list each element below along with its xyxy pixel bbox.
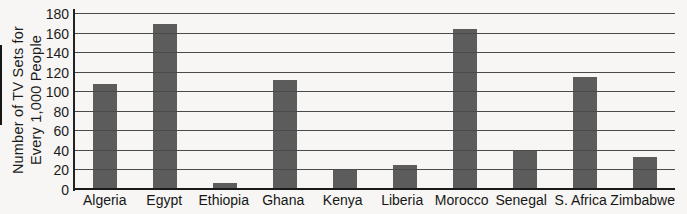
bar-zimbabwe: [633, 157, 657, 190]
x-axis-label-egypt: Egypt: [134, 192, 193, 208]
x-axis-label-ghana: Ghana: [253, 192, 312, 208]
gridline-60: [75, 130, 675, 131]
y-tick-label-120: 120: [46, 65, 69, 81]
bar-slot-senegal: [495, 14, 555, 190]
gridline-100: [75, 91, 675, 92]
bar-series: [75, 14, 675, 190]
gridline-120: [75, 72, 675, 73]
bar-slot-s-africa: [555, 14, 615, 190]
y-tick-label-80: 80: [53, 104, 69, 120]
y-axis-line: [73, 9, 75, 191]
x-axis-label-morocco: Morocco: [432, 192, 491, 208]
y-tick-label-60: 60: [53, 123, 69, 139]
y-tick-label-0: 0: [61, 182, 69, 198]
y-tick-label-40: 40: [53, 143, 69, 159]
x-axis-label-s-africa: S. Africa: [551, 192, 610, 208]
gridline-40: [75, 150, 675, 151]
y-tick-label-100: 100: [46, 84, 69, 100]
scan-artifact-strip: [0, 45, 2, 125]
x-axis-label-zimbabwe: Zimbabwe: [610, 192, 675, 208]
bar-slot-ethiopia: [195, 14, 255, 190]
bar-kenya: [333, 169, 357, 191]
bar-slot-kenya: [315, 14, 375, 190]
bar-liberia: [393, 165, 417, 190]
bar-slot-liberia: [375, 14, 435, 190]
bar-algeria: [93, 84, 117, 190]
x-axis-label-kenya: Kenya: [313, 192, 372, 208]
x-axis-line: [73, 188, 675, 190]
y-axis-tick-labels: 020406080100120140160180: [30, 14, 69, 190]
bar-ghana: [273, 80, 297, 190]
y-tick-label-20: 20: [53, 162, 69, 178]
gridline-180: [75, 13, 675, 14]
bar-egypt: [153, 24, 177, 190]
y-tick-label-140: 140: [46, 45, 69, 61]
x-axis-label-senegal: Senegal: [491, 192, 550, 208]
gridline-140: [75, 52, 675, 53]
x-axis-label-liberia: Liberia: [372, 192, 431, 208]
x-axis-category-labels: AlgeriaEgyptEthiopiaGhanaKenyaLiberiaMor…: [75, 192, 675, 208]
bar-s-africa: [573, 77, 597, 190]
gridline-160: [75, 33, 675, 34]
bar-slot-ghana: [255, 14, 315, 190]
bar-slot-morocco: [435, 14, 495, 190]
bar-slot-zimbabwe: [615, 14, 675, 190]
gridline-20: [75, 169, 675, 170]
y-tick-label-160: 160: [46, 26, 69, 42]
x-axis-label-ethiopia: Ethiopia: [194, 192, 253, 208]
plot-area: [75, 14, 675, 190]
gridline-80: [75, 111, 675, 112]
bar-chart-scan: Number of TV Sets for Every 1,000 People…: [0, 0, 687, 214]
x-axis-label-algeria: Algeria: [75, 192, 134, 208]
bar-slot-algeria: [75, 14, 135, 190]
bar-slot-egypt: [135, 14, 195, 190]
y-axis-title-line1: Number of TV Sets for: [9, 26, 27, 174]
y-tick-label-180: 180: [46, 6, 69, 22]
